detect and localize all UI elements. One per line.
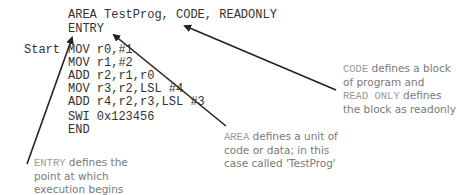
keyword-area: AREA <box>224 131 249 143</box>
note-text: the block as readonly <box>343 103 456 116</box>
note-text: defines the <box>66 156 128 168</box>
note-text: point at which <box>34 170 128 183</box>
note-text: case called 'TestProg' <box>224 157 338 170</box>
arrow-code-readonly <box>185 26 336 90</box>
keyword-code: CODE <box>343 63 368 75</box>
code-line: ADD r4,r2,r3,LSL #3 <box>68 96 205 109</box>
start-label: Start <box>24 44 60 57</box>
code-header-line-1: AREA TestProg, CODE, READONLY <box>68 9 277 22</box>
note-text: of program and <box>343 76 456 89</box>
note-text: defines <box>400 89 442 101</box>
annotation-entry: ENTRY defines the point at which executi… <box>34 156 128 195</box>
note-text: execution begins <box>34 183 128 195</box>
keyword-readonly: READ ONLY <box>343 90 400 102</box>
note-text: defines a unit of <box>249 130 338 142</box>
annotation-code-readonly: CODE defines a block of program and READ… <box>343 62 456 116</box>
note-text: code or data; in this <box>224 144 338 157</box>
code-line: END <box>68 124 90 137</box>
keyword-entry: ENTRY <box>34 157 66 169</box>
note-text: defines a block <box>368 62 451 74</box>
code-header-line-2: ENTRY <box>68 23 104 36</box>
annotation-area: AREA defines a unit of code or data; in … <box>224 130 338 170</box>
